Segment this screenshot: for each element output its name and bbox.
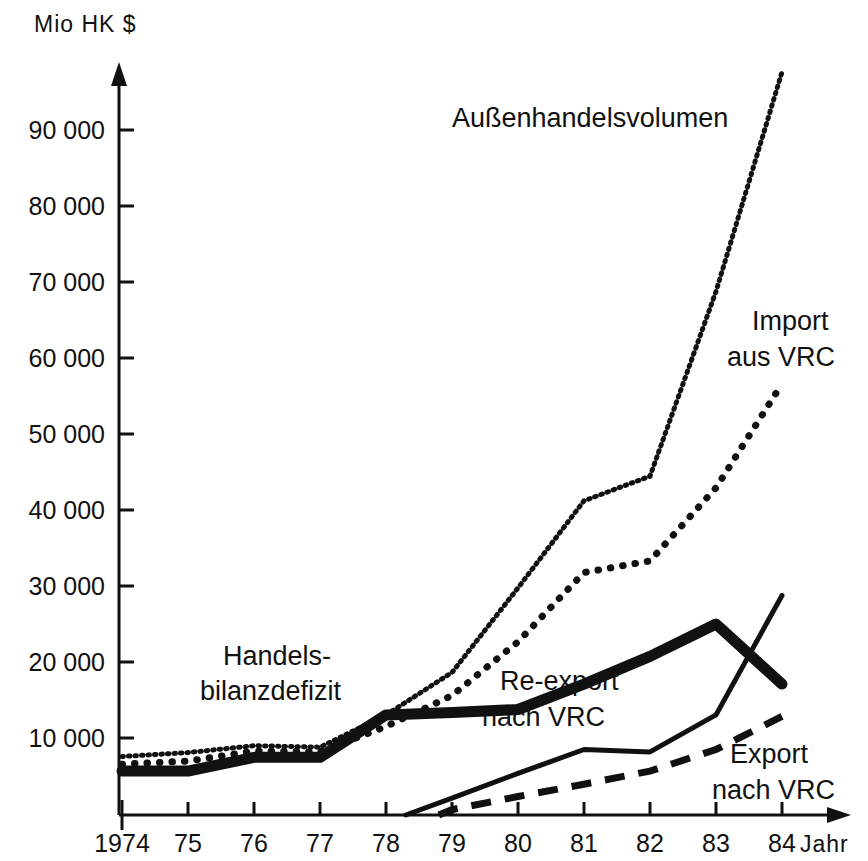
y-axis-title: Mio HK $	[34, 11, 137, 37]
x-axis-arrowhead	[827, 807, 851, 823]
x-tick-label-76: 76	[240, 829, 268, 857]
annotation-import-line1: Import	[752, 306, 829, 336]
series-line-aussenhandelsvolumen	[122, 72, 782, 757]
y-tick-label-40000: 40 000	[29, 496, 105, 524]
chart-container: Mio HK $ Jahr 90 000 80 000 70 000 60 00…	[0, 0, 868, 861]
annotation-aussenhandelsvolumen: Außenhandelsvolumen	[452, 103, 728, 133]
x-tick-label-80: 80	[504, 829, 532, 857]
x-tick-label-75: 75	[174, 829, 202, 857]
annotation-handelsbilanzdefizit-line2: bilanzdefizit	[200, 676, 342, 706]
y-axis-ticks	[119, 130, 134, 738]
x-tick-label-1974: 1974	[94, 829, 150, 857]
x-tick-label-77: 77	[306, 829, 334, 857]
y-axis-tick-labels: 90 000 80 000 70 000 60 000 50 000 40 00…	[29, 116, 105, 752]
y-tick-label-70000: 70 000	[29, 268, 105, 296]
y-tick-label-50000: 50 000	[29, 420, 105, 448]
y-tick-label-10000: 10 000	[29, 724, 105, 752]
y-tick-label-30000: 30 000	[29, 572, 105, 600]
x-tick-label-84: 84	[768, 829, 796, 857]
x-tick-label-83: 83	[702, 829, 730, 857]
annotation-import-line2: aus VRC	[727, 342, 835, 372]
x-tick-label-81: 81	[570, 829, 598, 857]
x-tick-label-78: 78	[372, 829, 400, 857]
annotation-handelsbilanzdefizit-line1: Handels-	[223, 641, 331, 671]
annotation-re-export-line2: nach VRC	[482, 702, 605, 732]
y-tick-label-20000: 20 000	[29, 648, 105, 676]
line-chart: Mio HK $ Jahr 90 000 80 000 70 000 60 00…	[0, 0, 868, 861]
x-tick-label-82: 82	[636, 829, 664, 857]
x-axis-title: Jahr	[800, 831, 849, 857]
y-tick-label-90000: 90 000	[29, 116, 105, 144]
y-tick-label-60000: 60 000	[29, 344, 105, 372]
x-axis-tick-labels: 1974 75 76 77 78 79 80 81 82 83 84	[94, 829, 796, 857]
y-tick-label-80000: 80 000	[29, 192, 105, 220]
annotation-export-line2: nach VRC	[712, 775, 835, 805]
y-axis-arrowhead	[111, 62, 127, 86]
annotation-re-export-line1: Re-export	[500, 666, 619, 696]
annotation-export-line1: Export	[730, 739, 809, 769]
x-tick-label-79: 79	[438, 829, 466, 857]
